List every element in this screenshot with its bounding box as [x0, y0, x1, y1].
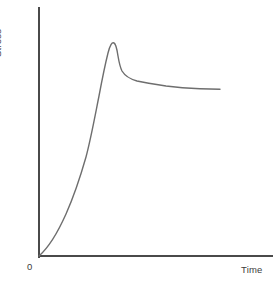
- axes-group: [39, 8, 272, 257]
- origin-tick-label: 0: [27, 261, 32, 272]
- x-axis-label: Time: [241, 264, 263, 275]
- stress-curve: [39, 43, 220, 256]
- y-axis-label: Stress: [0, 43, 47, 57]
- stress-time-chart: Stress Time 0: [0, 0, 275, 290]
- data-curve-group: [39, 43, 220, 256]
- y-axis-label-text: Stress: [0, 43, 5, 57]
